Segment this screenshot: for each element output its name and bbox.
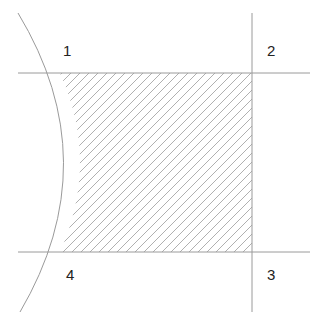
- concave-arc: [18, 13, 64, 312]
- hatched-region: [60, 73, 252, 252]
- corner-label-1: 1: [63, 43, 71, 58]
- corner-label-4: 4: [66, 267, 74, 282]
- diagram-canvas: [0, 0, 325, 334]
- corner-label-2: 2: [267, 43, 275, 58]
- corner-label-3: 3: [267, 267, 275, 282]
